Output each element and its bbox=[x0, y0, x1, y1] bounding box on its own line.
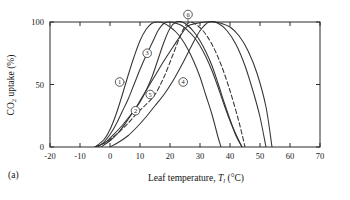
x-axis-title: Leaf temperature, Tl (°C) bbox=[148, 173, 244, 184]
x-tick-label-40: 40 bbox=[226, 151, 235, 161]
y-tick-label-0: 0 bbox=[40, 142, 44, 152]
x-tick-label-10: 10 bbox=[136, 151, 145, 161]
x-tick-label-30: 30 bbox=[196, 151, 205, 161]
y-tick-label-100: 100 bbox=[31, 17, 44, 27]
marker-label-6: 6 bbox=[186, 11, 189, 18]
curve-marker-5: 5 bbox=[146, 90, 155, 99]
x-tick-label-70: 70 bbox=[316, 151, 325, 161]
curve-marker-6: 6 bbox=[184, 10, 193, 22]
figure-panel: 123456 -20-10010203040506070 050100 Leaf… bbox=[0, 0, 350, 200]
x-tick-label-20: 20 bbox=[166, 151, 175, 161]
marker-group: 123456 bbox=[115, 10, 192, 115]
curve-marker-3: 3 bbox=[143, 49, 152, 58]
co2-uptake-vs-leaf-temperature-chart: 123456 -20-10010203040506070 050100 Leaf… bbox=[0, 0, 350, 200]
marker-label-1: 1 bbox=[118, 78, 121, 85]
x-tick-label--20: -20 bbox=[44, 151, 55, 161]
marker-label-3: 3 bbox=[146, 49, 149, 56]
marker-label-2: 2 bbox=[134, 107, 137, 114]
curve-marker-4: 4 bbox=[179, 78, 188, 87]
curve-marker-2: 2 bbox=[131, 106, 140, 115]
marker-label-5: 5 bbox=[149, 91, 152, 98]
x-tick-label--10: -10 bbox=[74, 151, 85, 161]
x-tick-label-60: 60 bbox=[286, 151, 295, 161]
panel-label: (a) bbox=[8, 170, 19, 181]
curve-marker-1: 1 bbox=[115, 78, 125, 87]
y-tick-label-50: 50 bbox=[36, 80, 45, 90]
y-axis-title: CO2 uptake (%) bbox=[6, 55, 17, 116]
x-tick-label-50: 50 bbox=[256, 151, 265, 161]
x-tick-label-0: 0 bbox=[108, 151, 112, 161]
y-axis-ticks: 050100 bbox=[31, 17, 320, 152]
